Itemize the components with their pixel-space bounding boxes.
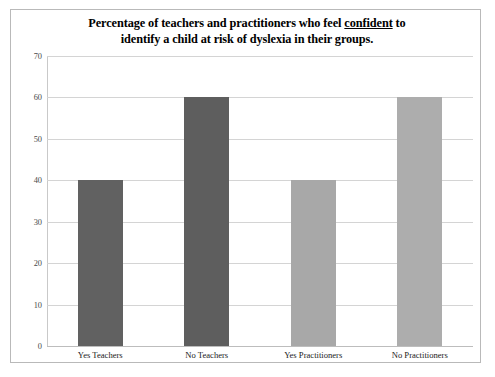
y-tick-label: 30 <box>34 217 42 226</box>
plot-area: 706050403020100 Yes TeachersNo TeachersY… <box>47 56 473 346</box>
x-axis-category-label: Yes Practitioners <box>260 350 367 360</box>
chart-frame: Percentage of teachers and practitioners… <box>10 9 481 363</box>
x-axis-category-label: No Teachers <box>154 350 261 360</box>
bar <box>184 97 229 346</box>
bar <box>78 180 123 346</box>
gridline <box>47 346 473 347</box>
y-axis-line <box>47 56 48 346</box>
chart-title-line2: identify a child at risk of dyslexia in … <box>121 32 374 46</box>
y-tick-label: 10 <box>34 300 42 309</box>
bar <box>397 97 442 346</box>
y-tick-label: 60 <box>34 93 42 102</box>
chart-title-emphasis-confident: confident <box>344 16 392 30</box>
y-tick-label: 70 <box>34 52 42 61</box>
y-tick-label: 20 <box>34 259 42 268</box>
y-tick-label: 50 <box>34 134 42 143</box>
chart-title-line1-pre: Percentage of teachers and practitioners… <box>88 16 344 30</box>
gridline <box>47 56 473 57</box>
y-tick-label: 40 <box>34 176 42 185</box>
chart-title: Percentage of teachers and practitioners… <box>29 15 465 47</box>
y-tick-label: 0 <box>38 342 42 351</box>
x-axis-category-label: Yes Teachers <box>47 350 154 360</box>
chart-title-line1-post: to <box>393 16 406 30</box>
x-axis-category-label: No Practitioners <box>367 350 474 360</box>
bar <box>291 180 336 346</box>
